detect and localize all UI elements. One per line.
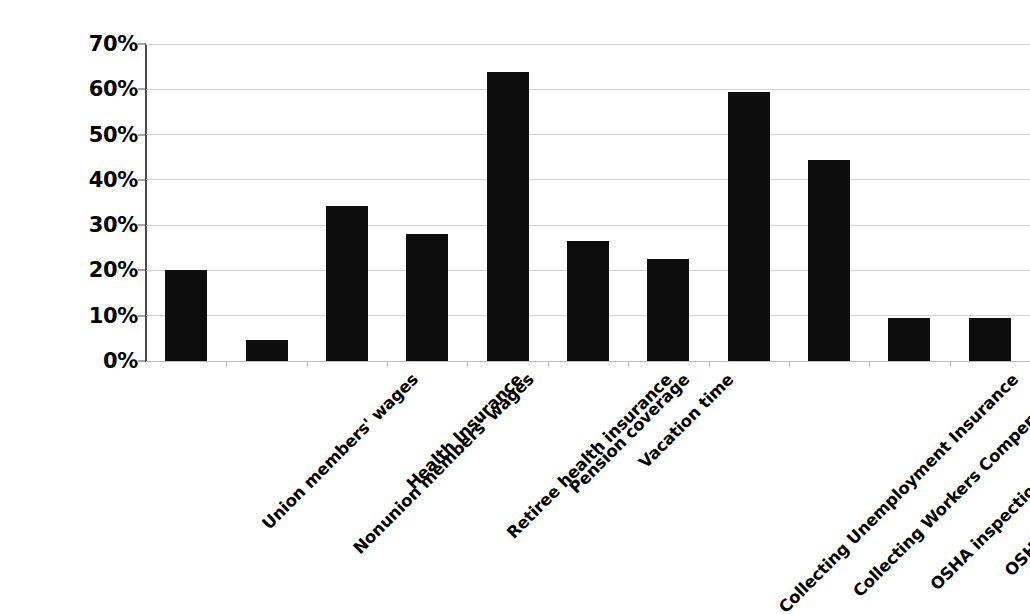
y-tick-label: 50%	[52, 124, 138, 145]
y-tick-label: 70%	[52, 34, 138, 55]
plot-area	[146, 44, 1030, 361]
bar-chart: 0%10%20%30%40%50%60%70% Union members' w…	[0, 0, 1030, 614]
bar[interactable]	[808, 160, 850, 361]
y-tick-label: 10%	[52, 305, 138, 326]
y-axis-labels: 0%10%20%30%40%50%60%70%	[52, 0, 138, 614]
bar[interactable]	[567, 241, 609, 361]
bar[interactable]	[647, 259, 689, 361]
y-tick-label: 0%	[52, 351, 138, 372]
y-axis-tick	[138, 361, 146, 362]
y-tick-label: 40%	[52, 169, 138, 190]
y-axis-tick	[138, 44, 146, 45]
x-tick-label-text: Collecting Unemployment Insurance	[777, 371, 1022, 614]
y-axis-tick	[138, 315, 146, 316]
y-axis-tick	[138, 89, 146, 90]
y-axis-tick	[138, 134, 146, 135]
y-tick-label: 60%	[52, 79, 138, 100]
gridline	[146, 134, 1030, 135]
x-tick-label-text: Health Insurance	[404, 371, 526, 493]
bar[interactable]	[165, 270, 207, 361]
x-tick-label-text: OSHA inspection: construction	[1003, 371, 1030, 579]
x-axis-labels: Union members' wagesNonunion members' wa…	[146, 363, 1030, 613]
gridline	[146, 89, 1030, 90]
y-axis-tick	[138, 225, 146, 226]
y-axis-tick	[138, 270, 146, 271]
x-tick-label: Collecting Unemployment Insurance	[781, 367, 1026, 612]
gridline	[146, 225, 1030, 226]
bar[interactable]	[487, 72, 529, 361]
bar[interactable]	[888, 318, 930, 361]
gridline	[146, 179, 1030, 180]
bar[interactable]	[728, 92, 770, 361]
y-tick-label: 20%	[52, 260, 138, 281]
bar[interactable]	[326, 206, 368, 361]
x-tick-label: OSHA inspection: construction	[1007, 367, 1030, 575]
bar[interactable]	[406, 234, 448, 361]
y-axis-tick	[138, 179, 146, 180]
gridline	[146, 44, 1030, 45]
bar[interactable]	[969, 318, 1011, 361]
y-tick-label: 30%	[52, 215, 138, 236]
bar[interactable]	[246, 340, 288, 361]
x-tick-label: Health Insurance	[408, 367, 530, 489]
